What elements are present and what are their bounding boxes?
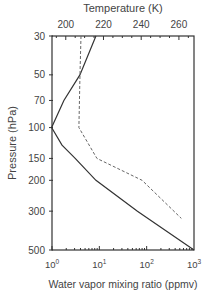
svg-text:200: 200: [57, 19, 74, 30]
svg-text:100: 100: [45, 258, 60, 270]
y-axis-label: Pressure (hPa): [6, 106, 18, 180]
svg-text:100: 100: [28, 122, 45, 133]
svg-text:102: 102: [140, 258, 155, 270]
svg-text:240: 240: [133, 19, 150, 30]
svg-text:30: 30: [34, 31, 46, 42]
plot-frame: [52, 36, 194, 250]
svg-text:70: 70: [34, 95, 46, 106]
svg-text:260: 260: [171, 19, 188, 30]
svg-text:150: 150: [28, 153, 45, 164]
svg-text:500: 500: [28, 245, 45, 256]
svg-text:101: 101: [92, 258, 107, 270]
temperature-line: [52, 36, 194, 250]
chart: Temperature (K) 200220240260 Pressure (h…: [0, 0, 209, 295]
bottom-axis-label: Water vapor mixing ratio (ppmv): [49, 278, 198, 290]
water-vapor-line: [79, 36, 181, 218]
top-axis-label: Temperature (K): [83, 2, 162, 14]
y-axis-ticks: 305070100150200300500: [28, 31, 53, 256]
svg-text:200: 200: [28, 175, 45, 186]
svg-text:103: 103: [187, 258, 202, 270]
svg-text:50: 50: [34, 69, 46, 80]
top-axis-ticks: 200220240260: [56, 19, 188, 40]
svg-text:220: 220: [95, 19, 112, 30]
svg-text:300: 300: [28, 206, 45, 217]
